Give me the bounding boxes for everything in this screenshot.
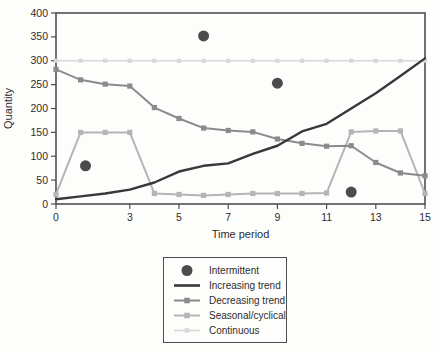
continuous-marker (226, 59, 230, 63)
continuous-marker (54, 59, 58, 63)
y-tick-label: 200 (30, 102, 48, 114)
seasonal-cyclical-marker (324, 190, 329, 195)
seasonal-cyclical-marker (422, 191, 427, 196)
figure: 05010015020025030035040003579111315Quant… (0, 0, 441, 352)
y-tick-label: 150 (30, 126, 48, 138)
decreasing-trend-marker (176, 116, 181, 121)
seasonal-cyclical-marker (275, 191, 280, 196)
continuous-marker (152, 59, 156, 63)
seasonal-cyclical-marker (176, 192, 181, 197)
seasonal-cyclical-marker (250, 191, 255, 196)
x-tick-label: 15 (419, 211, 431, 223)
seasonal-cyclical-line (56, 131, 425, 195)
legend-item-seasonal-cyclical: Seasonal/cyclical (170, 308, 284, 323)
legend-item-decreasing-trend: Decreasing trend (170, 293, 284, 308)
seasonal-cyclical-marker (201, 193, 206, 198)
legend-item-continuous: Continuous (170, 323, 284, 338)
continuous-marker (128, 59, 132, 63)
intermittent-point (272, 78, 283, 89)
y-tick-label: 50 (36, 174, 48, 186)
x-tick-label: 5 (176, 211, 182, 223)
seasonal-cyclical-marker (152, 191, 157, 196)
y-tick-label: 400 (30, 7, 48, 19)
legend-item-label: Continuous (204, 325, 260, 336)
decreasing-trend-line-icon (170, 294, 204, 307)
continuous-marker (325, 59, 329, 63)
seasonal-cyclical-marker (127, 130, 132, 135)
legend-item-label: Increasing trend (204, 280, 281, 291)
x-axis-title: Time period (212, 228, 270, 240)
intermittent-point (346, 187, 357, 198)
y-tick-label: 100 (30, 150, 48, 162)
legend-item-intermittent: Intermittent (170, 263, 284, 278)
seasonal-cyclical-line-icon (170, 309, 204, 322)
continuous-marker (300, 59, 304, 63)
decreasing-trend-marker (152, 105, 157, 110)
decreasing-trend-marker (226, 128, 231, 133)
x-tick-label: 3 (127, 211, 133, 223)
continuous-marker (349, 59, 353, 63)
decreasing-trend-marker (349, 143, 354, 148)
continuous-marker (103, 59, 107, 63)
decreasing-trend-marker (127, 83, 132, 88)
intermittent-dot-icon (170, 264, 204, 277)
seasonal-cyclical-marker (299, 191, 304, 196)
seasonal-cyclical-marker (349, 129, 354, 134)
y-tick-label: 0 (42, 198, 48, 210)
decreasing-trend-marker (103, 82, 108, 87)
chart-canvas: 05010015020025030035040003579111315Quant… (0, 0, 441, 252)
x-tick-label: 0 (53, 211, 59, 223)
x-tick-label: 7 (225, 211, 231, 223)
continuous-marker (398, 59, 402, 63)
continuous-marker (251, 59, 255, 63)
decreasing-trend-marker (201, 125, 206, 130)
y-tick-label: 350 (30, 30, 48, 42)
y-axis-title: Quantity (2, 88, 14, 129)
intermittent-point (198, 30, 209, 41)
legend-item-increasing-trend: Increasing trend (170, 278, 284, 293)
decreasing-trend-marker (324, 144, 329, 149)
decreasing-trend-marker (299, 141, 304, 146)
increasing-trend-line (56, 58, 425, 199)
seasonal-cyclical-marker (373, 128, 378, 133)
continuous-marker (202, 59, 206, 63)
continuous-marker (275, 59, 279, 63)
seasonal-cyclical-marker (226, 192, 231, 197)
x-tick-label: 13 (370, 211, 382, 223)
decreasing-trend-marker (78, 77, 83, 82)
decreasing-trend-marker (373, 160, 378, 165)
decreasing-trend-marker (275, 136, 280, 141)
x-tick-label: 11 (321, 211, 332, 223)
seasonal-cyclical-marker (78, 130, 83, 135)
y-tick-label: 250 (30, 78, 48, 90)
y-tick-label: 300 (30, 54, 48, 66)
seasonal-cyclical-marker (398, 128, 403, 133)
legend-item-label: Intermittent (204, 265, 259, 276)
x-tick-label: 9 (274, 211, 280, 223)
legend-item-label: Seasonal/cyclical (204, 310, 286, 321)
continuous-marker (79, 59, 83, 63)
continuous-marker (374, 59, 378, 63)
continuous-line-icon (170, 324, 204, 337)
decreasing-trend-marker (422, 173, 427, 178)
decreasing-trend-marker (398, 170, 403, 175)
chart-legend: Intermittent Increasing trend Decreasing… (163, 257, 287, 343)
decreasing-trend-marker (53, 67, 58, 72)
decreasing-trend-marker (250, 129, 255, 134)
plot-border (56, 13, 425, 204)
seasonal-cyclical-marker (53, 192, 58, 197)
seasonal-cyclical-marker (103, 130, 108, 135)
intermittent-point (80, 160, 91, 171)
legend-item-label: Decreasing trend (204, 295, 285, 306)
continuous-marker (177, 59, 181, 63)
increasing-trend-line-icon (170, 279, 204, 292)
